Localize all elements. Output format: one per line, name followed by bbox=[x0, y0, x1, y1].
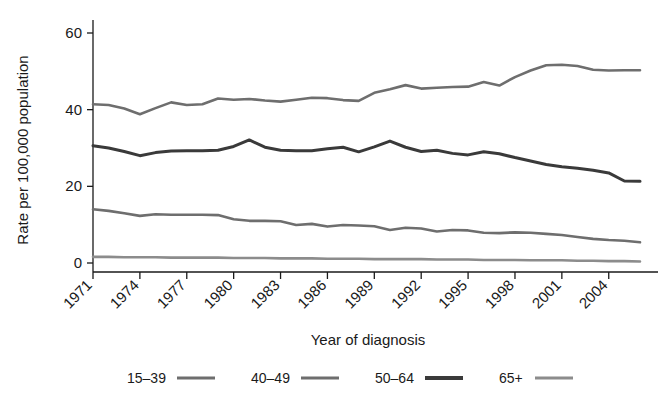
chart-legend: 15–3940–4950–6465+ bbox=[127, 370, 573, 386]
data-series-group bbox=[93, 65, 640, 262]
legend-label: 40–49 bbox=[251, 370, 290, 386]
legend-label: 50–64 bbox=[375, 370, 414, 386]
x-axis-tick-label: 1983 bbox=[247, 276, 283, 312]
x-axis-tick-label: 2001 bbox=[528, 276, 564, 312]
line-chart: 0204060 19711974197719801983198619891992… bbox=[0, 0, 658, 411]
x-axis-title: Year of diagnosis bbox=[311, 331, 426, 348]
legend-label: 65+ bbox=[499, 370, 523, 386]
series-line-50-64 bbox=[93, 140, 640, 181]
series-line-40-49 bbox=[93, 209, 640, 242]
x-axis-tick-label: 1974 bbox=[106, 276, 142, 312]
y-axis-tick-label: 40 bbox=[65, 101, 82, 118]
y-axis-tick-label: 0 bbox=[74, 254, 82, 271]
x-axis-tick-label: 1989 bbox=[341, 276, 377, 312]
chart-container: 0204060 19711974197719801983198619891992… bbox=[0, 0, 658, 411]
x-axis-tick-label: 1971 bbox=[60, 276, 96, 312]
x-axis-tick-label: 1998 bbox=[481, 276, 517, 312]
y-axis: 0204060 bbox=[65, 20, 93, 272]
y-axis-title: Rate per 100,000 population bbox=[14, 55, 31, 244]
x-axis: 1971197419771980198319861989199219951998… bbox=[60, 272, 658, 312]
legend-label: 15–39 bbox=[127, 370, 166, 386]
series-line-15-39 bbox=[93, 65, 640, 114]
x-axis-tick-label: 2004 bbox=[575, 276, 611, 312]
x-axis-tick-label: 1977 bbox=[153, 276, 189, 312]
y-axis-tick-label: 20 bbox=[65, 177, 82, 194]
x-axis-tick-label: 1992 bbox=[388, 276, 424, 312]
y-axis-tick-label: 60 bbox=[65, 24, 82, 41]
x-axis-tick-label: 1980 bbox=[200, 276, 236, 312]
series-line-65+ bbox=[93, 257, 640, 262]
x-axis-tick-label: 1995 bbox=[435, 276, 471, 312]
x-axis-tick-label: 1986 bbox=[294, 276, 330, 312]
